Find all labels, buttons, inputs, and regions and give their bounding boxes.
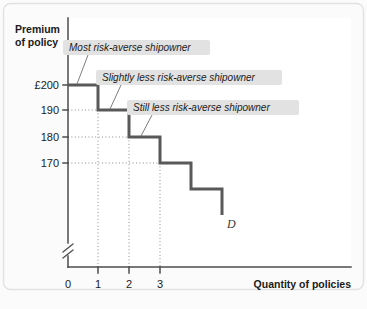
annotation-slightly-less-risk-averse-text: Slightly less risk-averse shipowner <box>102 72 256 83</box>
x-axis-title: Quantity of policies <box>254 278 352 290</box>
x-tick-label-1: 1 <box>95 278 101 290</box>
annotation-still-less-risk-averse-text: Still less risk-averse shipowner <box>133 102 270 113</box>
curve-label-D: D <box>226 217 236 231</box>
plot-area-background <box>68 18 351 267</box>
y-tick-label-170: 170 <box>41 157 59 169</box>
annotation-still-less-risk-averse: Still less risk-averse shipowner <box>127 100 299 115</box>
y-axis-title-line1: Premium <box>15 23 60 35</box>
annotation-most-risk-averse: Most risk-averse shipowner <box>63 40 210 55</box>
annotation-most-risk-averse-text: Most risk-averse shipowner <box>69 42 191 53</box>
y-tick-label-200: £200 <box>35 79 59 91</box>
figure-frame: £200 190 180 170 0 1 2 3 Premium of poli… <box>0 0 367 309</box>
x-tick-label-3: 3 <box>157 278 163 290</box>
demand-step-chart: £200 190 180 170 0 1 2 3 Premium of poli… <box>0 0 367 309</box>
x-tick-label-2: 2 <box>126 278 132 290</box>
y-axis-title-line2: of policy <box>15 36 58 48</box>
annotation-slightly-less-risk-averse: Slightly less risk-averse shipowner <box>96 70 282 85</box>
x-tick-label-0: 0 <box>65 278 71 290</box>
y-tick-label-180: 180 <box>41 131 59 143</box>
y-tick-label-190: 190 <box>41 104 59 116</box>
